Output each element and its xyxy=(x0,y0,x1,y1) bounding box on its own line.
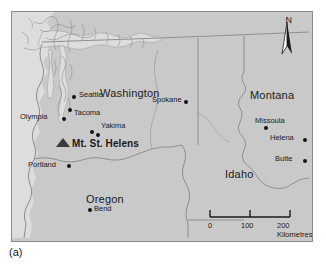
city-dot-seattle xyxy=(72,95,76,99)
map-figure: Mt. St. Helens Washington Oregon Idaho M… xyxy=(0,0,326,266)
city-dot-olympia xyxy=(62,117,66,121)
volcano-triangle-icon xyxy=(56,138,70,147)
city-label-portland: Portland xyxy=(28,161,56,169)
city-dot-missoula xyxy=(264,126,268,130)
state-label-washington: Washington xyxy=(100,88,160,99)
city-label-bend: Bend xyxy=(94,205,112,213)
figure-caption: (a) xyxy=(9,246,22,258)
north-arrow-icon xyxy=(276,18,298,58)
city-label-olympia: Olympia xyxy=(20,113,48,121)
city-label-seattle: Seattle xyxy=(79,91,102,99)
city-label-missoula: Missoula xyxy=(255,117,285,125)
city-dot-tacoma xyxy=(68,108,72,112)
city-dot-yakima xyxy=(96,133,100,137)
city-label-helena: Helena xyxy=(270,134,294,142)
city-label-spokane: Spokane xyxy=(152,96,182,104)
city-label-tacoma: Tacoma xyxy=(74,109,100,117)
map-frame: Mt. St. Helens Washington Oregon Idaho M… xyxy=(11,11,313,242)
city-dot-bend xyxy=(88,208,92,212)
state-label-idaho: Idaho xyxy=(225,169,254,180)
city-dot-butte xyxy=(303,159,307,163)
city-dot-helena xyxy=(303,138,307,142)
volcano-label: Mt. St. Helens xyxy=(72,139,139,149)
city-dot-portland xyxy=(67,164,71,168)
scale-tick-100: 100 xyxy=(241,221,254,230)
scale-tick-200: 200 Kilometres xyxy=(277,221,312,239)
scale-tick-0: 0 xyxy=(208,221,212,230)
scale-bar-graphic xyxy=(208,208,308,222)
mt-st-helens-summit-dot xyxy=(90,130,94,134)
state-label-montana: Montana xyxy=(250,90,294,101)
scale-bar: 0 100 200 Kilometres xyxy=(208,208,308,234)
map-geography xyxy=(12,12,309,238)
city-label-butte: Butte xyxy=(275,155,293,163)
city-dot-spokane xyxy=(184,100,188,104)
city-label-yakima: Yakima xyxy=(101,122,125,130)
